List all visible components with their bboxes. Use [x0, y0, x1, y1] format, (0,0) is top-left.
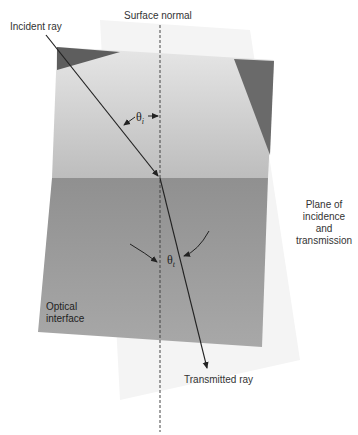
optical-interface-label: Optical interface: [46, 301, 84, 325]
interface-label-line-2: interface: [46, 313, 84, 325]
transmitted-ray-label: Transmitted ray: [184, 374, 253, 386]
plane-label-line-4: transmission: [292, 235, 356, 247]
theta-t-subscript: t: [173, 260, 175, 269]
surface-normal-label: Surface normal: [124, 10, 192, 22]
plane-label-line-1: Plane of: [292, 199, 356, 211]
plane-label-line-2: incidence: [292, 211, 356, 223]
theta-t-symbol: θt: [167, 253, 175, 269]
theta-i-symbol: θi: [136, 110, 144, 126]
theta-i-subscript: i: [142, 117, 144, 126]
plane-of-incidence-label: Plane of incidence and transmission: [292, 199, 356, 247]
incident-ray-label: Incident ray: [10, 21, 62, 33]
optics-diagram: Surface normal Incident ray Transmitted …: [0, 0, 358, 435]
interface-label-line-1: Optical: [46, 301, 84, 313]
plane-label-line-3: and: [292, 223, 356, 235]
